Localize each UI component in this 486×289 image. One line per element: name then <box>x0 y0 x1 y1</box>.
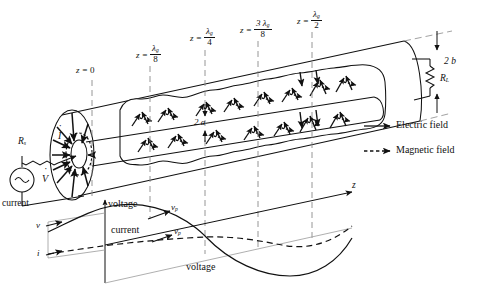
plane-label-l8-fraction: λg 8 <box>150 44 161 64</box>
plane-label-l2-num-sub: g <box>317 13 320 19</box>
plane-label-l8-prefix: z = <box>136 50 148 60</box>
graph-z-axis-label: z <box>352 181 356 191</box>
source-resistance-subscript: s <box>24 140 26 146</box>
current-curve <box>48 226 352 254</box>
legend-electric-field-label: Electric field <box>396 120 448 130</box>
plane-label-l2-den: 2 <box>311 21 322 30</box>
graph-i-axis-label: i <box>37 249 40 258</box>
voltage-phasor-label: V <box>42 174 48 184</box>
plane-label-3l8-prefix: z = <box>240 25 252 35</box>
plane-label-l2-prefix: z = <box>297 16 309 26</box>
plane-label-3l8-num: 3 λ <box>256 18 267 28</box>
plane-label-3l8-fraction: 3 λg 8 <box>254 19 271 39</box>
phase-velocity-label-voltage: vp <box>171 203 178 213</box>
plane-label-l4-den: 4 <box>204 38 215 47</box>
plane-label-l4-num-sub: g <box>210 30 213 36</box>
outer-diameter-label: 2 b <box>444 57 456 67</box>
h-field-marks-z0 <box>66 133 92 175</box>
plane-label-lambda-over-8: z = λg 8 <box>136 44 161 64</box>
voltage-phasor-symbol: V <box>42 174 48 184</box>
plane-label-l8-den: 8 <box>150 55 161 64</box>
inner-diameter-label: 2 a <box>194 118 205 127</box>
vp-voltage-arrow-icon <box>148 211 170 219</box>
plane-label-z0-text: z = <box>76 65 88 75</box>
load-resistance-subscript: L <box>446 77 449 83</box>
plane-label-lambda-over-2: z = λg 2 <box>297 10 322 30</box>
load-resistance-label: RL <box>440 74 449 84</box>
graph-v-axis-label: v <box>36 221 40 230</box>
plane-label-z0-value: 0 <box>90 65 95 75</box>
graph-voltage-label-top: voltage <box>108 199 137 209</box>
plane-label-l4-prefix: z = <box>190 33 202 43</box>
current-phasor-symbol: I <box>58 131 61 141</box>
load-resistor <box>412 59 434 100</box>
plane-label-l4-fraction: λg 4 <box>204 27 215 47</box>
vp-voltage-sub: p <box>175 206 178 212</box>
plane-label-3l8-den: 8 <box>254 30 271 39</box>
current-phasor-label: I <box>58 131 61 141</box>
legend-symbols <box>364 126 390 151</box>
phase-velocity-arrows <box>148 211 172 242</box>
plane-label-z0: z = 0 <box>76 66 95 75</box>
vp-current-arrow-icon <box>152 235 172 242</box>
phase-velocity-label-current: vp <box>174 227 181 237</box>
graph-voltage-label-bottom: voltage <box>186 262 215 272</box>
voltage-callout-leader <box>236 255 272 266</box>
plane-label-three-lambda-over-8: z = 3 λg 8 <box>240 19 272 39</box>
plane-label-l8-num-sub: g <box>156 47 159 53</box>
figure-root: z = 0 z = λg 8 z = λg 4 z = 3 λg 8 z = λ… <box>0 0 486 289</box>
source-current-label: current <box>2 199 29 209</box>
cutaway-window <box>120 65 386 165</box>
vp-current-sub: p <box>178 230 181 236</box>
legend-magnetic-field-label: Magnetic field <box>396 145 455 155</box>
source-resistance-label: Rs <box>18 137 26 147</box>
v-arrow-icon <box>46 222 62 226</box>
plane-label-l2-fraction: λg 2 <box>311 10 322 30</box>
plane-label-3l8-num-sub: g <box>267 22 270 28</box>
plane-label-lambda-over-4: z = λg 4 <box>190 27 215 47</box>
graph-current-label: current <box>111 225 139 235</box>
